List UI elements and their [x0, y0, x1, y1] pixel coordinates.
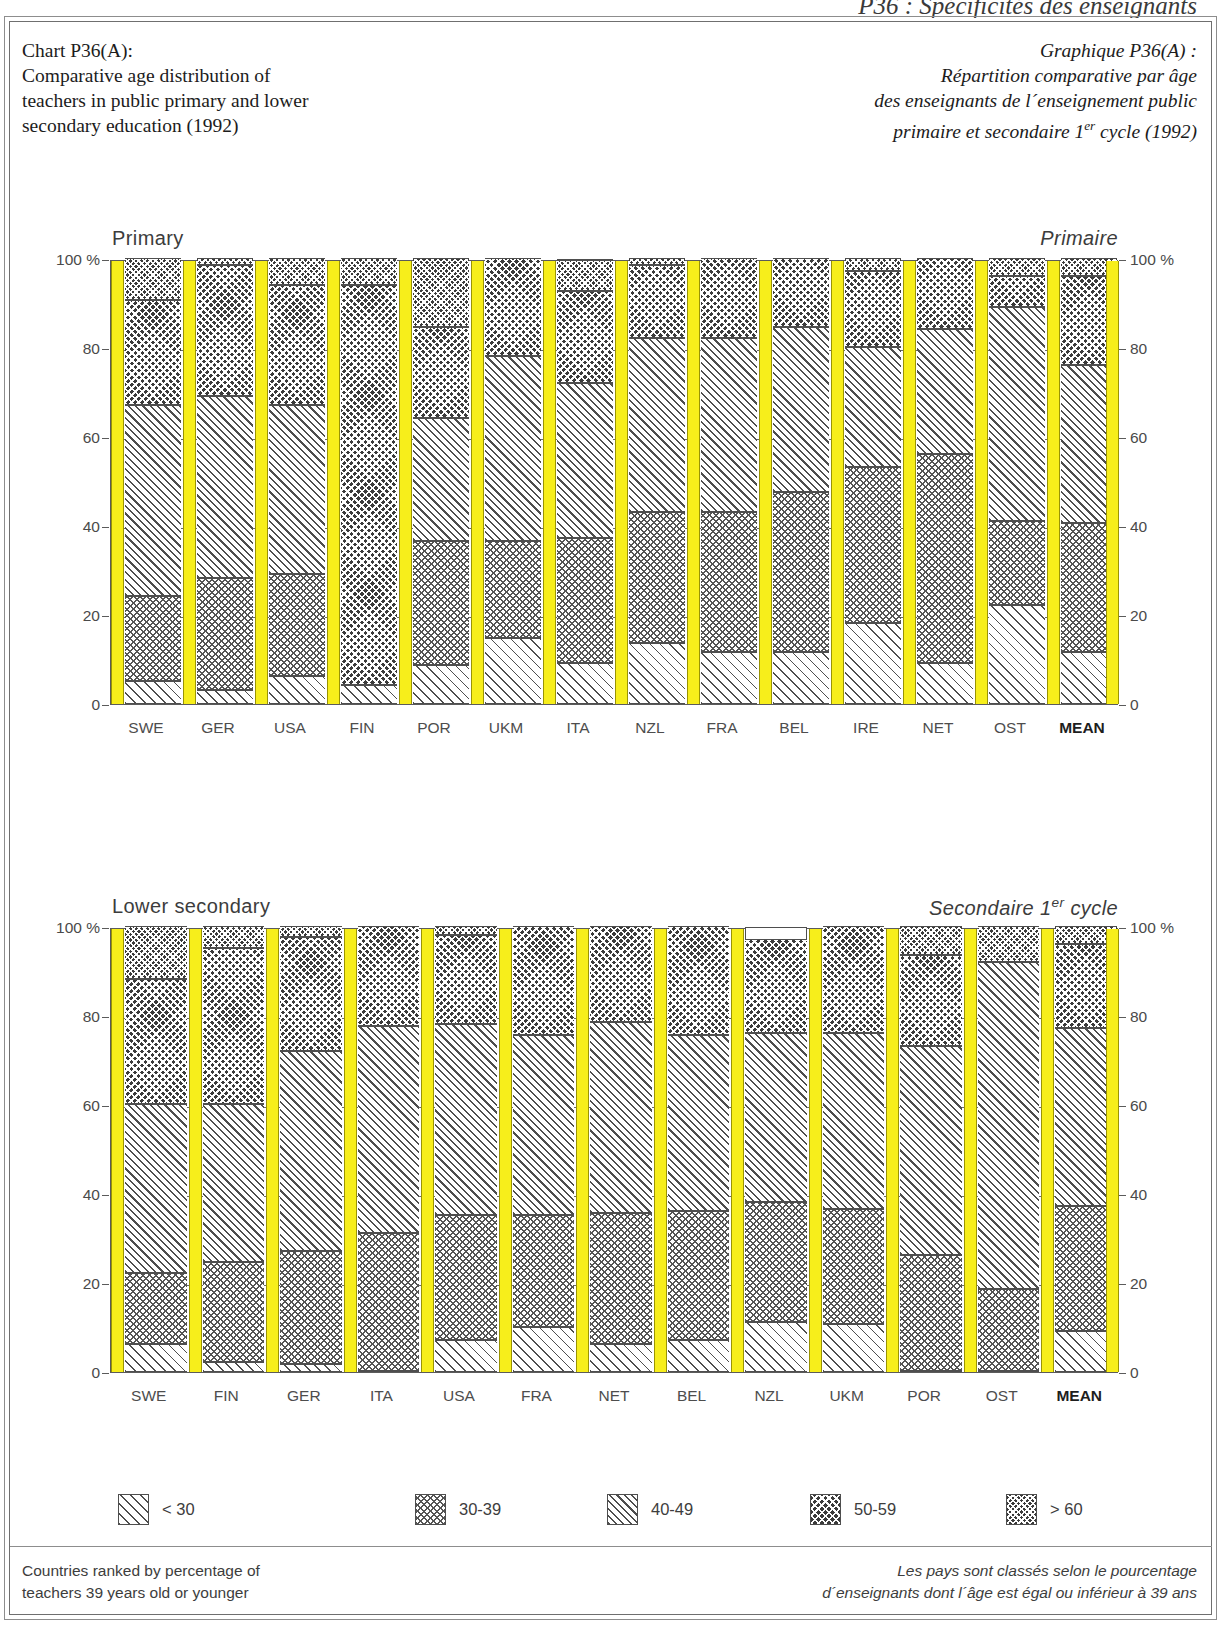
stacked-bar-swe[interactable]: [125, 259, 181, 704]
bar-separator: [831, 261, 844, 704]
bar-separator: [1047, 261, 1060, 704]
bar-group-swe[interactable]: [111, 261, 183, 704]
bar-group-fin[interactable]: [189, 929, 267, 1372]
stacked-bar-net[interactable]: [590, 927, 652, 1372]
stacked-bar-fra[interactable]: [513, 927, 575, 1372]
bar-group-net[interactable]: [576, 929, 654, 1372]
bar-group-nzl[interactable]: [615, 261, 687, 704]
bar-segment-nzl-30: [745, 1322, 807, 1371]
stacked-bar-ost[interactable]: [978, 927, 1040, 1372]
footnote-en-line1: Countries ranked by percentage of: [22, 1560, 492, 1582]
bar-group-ost[interactable]: [975, 261, 1047, 704]
x-axis-label-nzl: NZL: [730, 1387, 808, 1405]
title-en-line1: Chart P36(A):: [22, 38, 492, 63]
y-tick-label-left-20: 20: [12, 607, 100, 625]
bar-group-bel[interactable]: [759, 261, 831, 704]
bar-segment-swe-3039: [125, 596, 181, 681]
stacked-bar-nzl[interactable]: [629, 259, 685, 704]
bar-group-ger[interactable]: [183, 261, 255, 704]
stacked-bar-bel[interactable]: [773, 259, 829, 704]
y-tick-label-left-40: 40: [12, 1186, 100, 1204]
legend-swatch-icon: [607, 1494, 638, 1525]
x-axis-label-net: NET: [902, 719, 974, 737]
x-axis-label-bel: BEL: [653, 1387, 731, 1405]
stacked-bar-ger[interactable]: [197, 259, 253, 704]
stacked-bar-ita[interactable]: [557, 259, 613, 704]
legend-item-30[interactable]: < 30: [118, 1494, 195, 1525]
bar-separator: [809, 929, 822, 1372]
bar-segment-net-3039: [590, 1213, 652, 1344]
bar-segment-swe-5059: [125, 979, 187, 1104]
bar-group-usa[interactable]: [421, 929, 499, 1372]
bar-segment-ost-60: [978, 926, 1040, 962]
bar-group-nzl[interactable]: [731, 929, 809, 1372]
bar-group-fra[interactable]: [687, 261, 759, 704]
bar-group-ger[interactable]: [266, 929, 344, 1372]
y-tick-mark-left-60: [102, 438, 109, 439]
bar-segment-ger-3039: [280, 1251, 342, 1364]
stacked-bar-ire[interactable]: [845, 259, 901, 704]
y-tick-mark-right-100: [1119, 928, 1126, 929]
bar-group-ukm[interactable]: [471, 261, 543, 704]
stacked-bar-por[interactable]: [900, 927, 962, 1372]
y-tick-label-right-100: 100 %: [1130, 919, 1218, 937]
bar-group-ire[interactable]: [831, 261, 903, 704]
bar-segment-por-4049: [413, 418, 469, 540]
bar-group-fra[interactable]: [499, 929, 577, 1372]
stacked-bar-swe[interactable]: [125, 927, 187, 1372]
legend-label: 40-49: [651, 1500, 693, 1519]
legend-item-3039[interactable]: 30-39: [415, 1494, 501, 1525]
stacked-bar-usa[interactable]: [269, 259, 325, 704]
title-en-line4: secondary education (1992): [22, 113, 492, 138]
bar-group-net[interactable]: [903, 261, 975, 704]
bar-segment-ire-3039: [845, 467, 901, 623]
stacked-bar-net[interactable]: [917, 259, 973, 704]
bar-group-ita[interactable]: [543, 261, 615, 704]
bar-segment-bel-3039: [773, 492, 829, 652]
bar-segment-por-5059: [900, 955, 962, 1046]
bar-segment-ita-4049: [557, 383, 613, 539]
stacked-bar-ita[interactable]: [358, 927, 420, 1372]
footnote-english: Countries ranked by percentage of teache…: [22, 1560, 492, 1604]
bar-group-ost[interactable]: [964, 929, 1042, 1372]
bar-segment-fra-5059: [701, 258, 757, 338]
stacked-bar-bel[interactable]: [668, 927, 730, 1372]
stacked-bar-fin[interactable]: [203, 927, 265, 1372]
x-axis-label-ost: OST: [974, 719, 1046, 737]
bar-group-swe[interactable]: [111, 929, 189, 1372]
stacked-bar-ukm[interactable]: [485, 259, 541, 704]
x-axis-label-ita: ITA: [343, 1387, 421, 1405]
stacked-bar-fin[interactable]: [341, 259, 397, 704]
bar-group-por[interactable]: [886, 929, 964, 1372]
bar-group-ukm[interactable]: [809, 929, 887, 1372]
stacked-bar-fra[interactable]: [701, 259, 757, 704]
x-axis-label-net: NET: [575, 1387, 653, 1405]
bar-segment-usa-3039: [269, 574, 325, 676]
stacked-bar-ost[interactable]: [989, 259, 1045, 704]
bar-group-por[interactable]: [399, 261, 471, 704]
bar-group-ita[interactable]: [344, 929, 422, 1372]
bar-segment-por-60: [413, 258, 469, 327]
bar-separator: [266, 929, 279, 1372]
bar-separator: [111, 929, 124, 1372]
bar-separator: [731, 929, 744, 1372]
stacked-bar-ukm[interactable]: [823, 927, 885, 1372]
stacked-bar-nzl[interactable]: [745, 927, 807, 1372]
bar-group-usa[interactable]: [255, 261, 327, 704]
bar-segment-usa-60: [435, 926, 497, 935]
y-tick-label-right-80: 80: [1130, 1008, 1218, 1026]
bar-separator: [903, 261, 916, 704]
legend-item-5059[interactable]: 50-59: [810, 1494, 896, 1525]
bar-group-fin[interactable]: [327, 261, 399, 704]
stacked-bar-ger[interactable]: [280, 927, 342, 1372]
legend-item-60[interactable]: > 60: [1006, 1494, 1083, 1525]
stacked-bar-por[interactable]: [413, 259, 469, 704]
y-tick-mark-left-0: [102, 705, 109, 706]
bar-group-bel[interactable]: [654, 929, 732, 1372]
bar-segment-bel-30: [668, 1340, 730, 1371]
stacked-bar-usa[interactable]: [435, 927, 497, 1372]
y-tick-mark-right-60: [1119, 1106, 1126, 1107]
y-tick-label-left-60: 60: [12, 429, 100, 447]
panel-title-primary-en: Primary: [112, 227, 184, 250]
legend-item-4049[interactable]: 40-49: [607, 1494, 693, 1525]
